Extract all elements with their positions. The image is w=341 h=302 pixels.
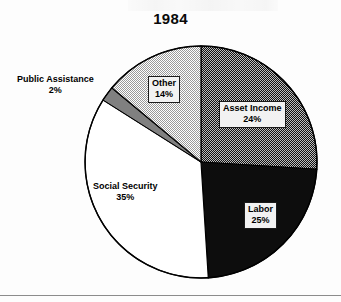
slice-label-public-assistance-name: Public Assistance [17,74,94,84]
pie-graphic [0,0,341,302]
slice-label-other-value: 14% [152,89,176,100]
slice-label-social-security: Social Security 35% [93,181,158,203]
slice-label-labor-value: 25% [248,215,273,226]
slice-label-other: Other 14% [148,76,180,103]
slice-label-asset-income-value: 24% [223,114,282,125]
slice-label-social-security-value: 35% [93,192,158,203]
slice-label-public-assistance-value: 2% [17,85,94,96]
slice-label-social-security-name: Social Security [93,181,158,191]
footer-divider [0,295,341,296]
slice-label-other-name: Other [152,78,176,88]
slice-label-labor-name: Labor [248,204,273,214]
slice-label-asset-income: Asset Income 24% [219,101,286,128]
slice-label-asset-income-name: Asset Income [223,103,282,113]
slice-label-labor: Labor 25% [244,202,277,229]
pie-chart-figure: 1984 Asset Income 24% [0,0,341,302]
slice-label-public-assistance: Public Assistance 2% [17,74,94,96]
